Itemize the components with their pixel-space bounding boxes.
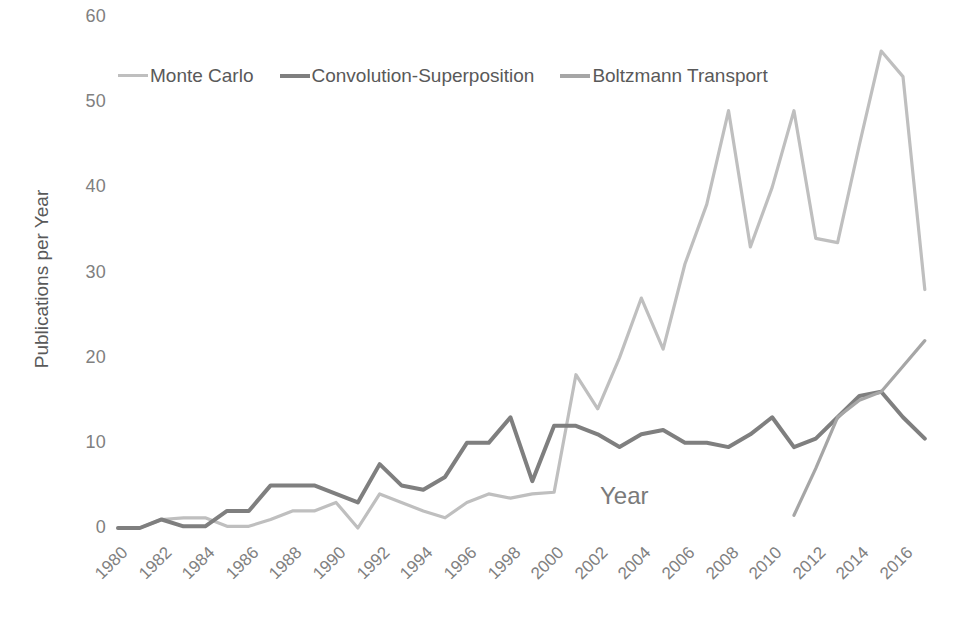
x-tick-label: 1980	[87, 543, 132, 588]
x-tick-label: 2008	[697, 543, 742, 588]
x-tick-label: 2000	[523, 543, 568, 588]
legend-line-swatch-icon	[560, 74, 590, 78]
x-tick-label: 2004	[610, 543, 655, 588]
x-tick-label: 1988	[261, 543, 306, 588]
chart-legend: Monte CarloConvolution-SuperpositionBolt…	[118, 66, 768, 85]
x-axis-tick-group: 1980198219841986198819901992199419961998…	[0, 0, 956, 623]
legend-label: Monte Carlo	[150, 66, 254, 85]
x-tick-label: 1982	[130, 543, 175, 588]
x-tick-label: 2012	[785, 543, 830, 588]
x-tick-label: 1992	[349, 543, 394, 588]
legend-line-swatch-icon	[118, 74, 148, 77]
x-axis-title: Year	[600, 482, 649, 510]
x-tick-label: 1996	[436, 543, 481, 588]
legend-label: Boltzmann Transport	[592, 66, 767, 85]
legend-line-swatch-icon	[280, 74, 310, 78]
x-tick-label: 1998	[479, 543, 524, 588]
legend-item[interactable]: Monte Carlo	[118, 66, 254, 85]
x-tick-label: 2010	[741, 543, 786, 588]
x-tick-label: 1994	[392, 543, 437, 588]
x-tick-label: 1984	[174, 543, 219, 588]
x-tick-label: 1986	[218, 543, 263, 588]
x-tick-label: 2006	[654, 543, 699, 588]
legend-label: Convolution-Superposition	[312, 66, 535, 85]
publications-per-year-line-chart: Publications per Year 0102030405060 1980…	[0, 0, 956, 623]
x-tick-label: 1990	[305, 543, 350, 588]
x-tick-label: 2016	[872, 543, 917, 588]
legend-item[interactable]: Boltzmann Transport	[560, 66, 767, 85]
x-tick-label: 2002	[567, 543, 612, 588]
legend-item[interactable]: Convolution-Superposition	[280, 66, 535, 85]
x-tick-label: 2014	[828, 543, 873, 588]
